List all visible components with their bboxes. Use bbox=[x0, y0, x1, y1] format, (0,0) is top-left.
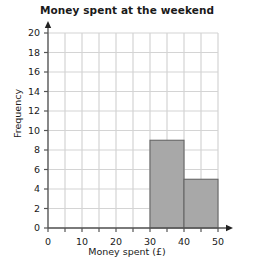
bar bbox=[150, 140, 184, 228]
bar bbox=[184, 179, 218, 228]
y-tick-label: 4 bbox=[34, 183, 40, 194]
x-axis-arrowhead bbox=[226, 225, 233, 231]
y-tick-label: 2 bbox=[34, 203, 40, 214]
y-tick-label: 8 bbox=[34, 144, 40, 155]
y-tick-label: 18 bbox=[28, 47, 40, 58]
chart-figure: Money spent at the weekend 01020304050 0… bbox=[0, 0, 254, 264]
y-tick-label: 0 bbox=[34, 222, 40, 233]
y-tick-labels: 02468101214161820 bbox=[28, 27, 40, 233]
y-axis-label: Frequency bbox=[12, 64, 23, 164]
chart-plot-area: 01020304050 02468101214161820 bbox=[0, 0, 254, 264]
x-axis-label: Money spent (£) bbox=[0, 246, 254, 257]
y-tick-label: 14 bbox=[28, 86, 40, 97]
y-tick-label: 16 bbox=[28, 66, 40, 77]
y-tick-label: 20 bbox=[28, 27, 40, 38]
y-axis-arrowhead bbox=[45, 21, 51, 28]
y-tick-label: 6 bbox=[34, 164, 40, 175]
y-tick-label: 10 bbox=[28, 125, 40, 136]
y-tick-label: 12 bbox=[28, 105, 40, 116]
bars-group bbox=[150, 140, 218, 228]
